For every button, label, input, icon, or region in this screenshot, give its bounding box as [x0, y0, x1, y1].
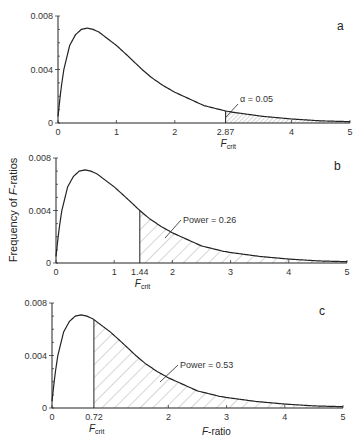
f-crit-value: 2.87 [217, 127, 235, 137]
shaded-annotation: Power = 0.53 [180, 360, 233, 370]
panel-letter: a [337, 19, 344, 33]
y-tick-label: 0.008 [28, 153, 51, 163]
x-tick-label: 3 [228, 267, 233, 277]
x-tick-label: 1 [114, 127, 119, 137]
y-tick-label: 0.004 [28, 206, 51, 216]
y-tick-label: 0 [48, 118, 53, 128]
x-tick-label: 2 [170, 267, 175, 277]
x-tick-label: 5 [344, 267, 349, 277]
f-crit-label: Fcrit [221, 138, 236, 150]
f-crit-value: 0.72 [85, 412, 103, 422]
x-tick-label: 5 [340, 412, 345, 422]
f-distribution-curve [58, 28, 350, 122]
panel-letter: b [334, 159, 341, 173]
f-crit-value: 1.44 [131, 267, 149, 277]
panel-letter: c [319, 304, 325, 318]
x-tick-label: 5 [347, 127, 352, 137]
y-tick-label: 0 [46, 258, 51, 268]
shaded-annotation: Power = 0.26 [183, 215, 236, 225]
y-axis-label: Frequency of F-ratios [7, 157, 19, 262]
f-distribution-figure: 00.0040.008012452.87Fcritα = 0.05a 00.00… [0, 0, 359, 442]
x-tick-label: 4 [282, 412, 287, 422]
y-tick-label: 0.004 [24, 351, 47, 361]
x-tick-label: 2 [166, 412, 171, 422]
x-tick-label: 3 [224, 412, 229, 422]
y-tick-label: 0.008 [24, 298, 47, 308]
f-crit-label: Fcrit [89, 423, 104, 435]
f-crit-label: Fcrit [135, 278, 150, 290]
x-tick-label: 0 [49, 412, 54, 422]
panel-b: 00.0040.0080123451.44FcritPower = 0.26b [28, 153, 349, 290]
x-tick-label: 1 [112, 267, 117, 277]
x-tick-label: 0 [53, 267, 58, 277]
shaded-region [140, 211, 347, 264]
x-axis-label: F-ratio [202, 426, 231, 437]
panel-c: 00.0040.008023450.72FcritPower = 0.53c [24, 298, 345, 435]
x-tick-label: 4 [286, 267, 291, 277]
y-tick-label: 0.008 [30, 11, 53, 21]
shaded-annotation: α = 0.05 [240, 94, 273, 104]
panel-a: 00.0040.008012452.87Fcritα = 0.05a [30, 11, 352, 150]
x-tick-label: 0 [55, 127, 60, 137]
x-tick-label: 2 [172, 127, 177, 137]
y-tick-label: 0.004 [30, 65, 53, 75]
y-tick-label: 0 [42, 403, 47, 413]
x-tick-label: 4 [289, 127, 294, 137]
